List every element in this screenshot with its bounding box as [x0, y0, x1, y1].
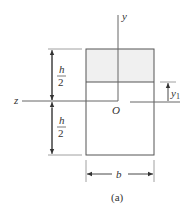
h-half-top-numerator: h — [59, 63, 65, 75]
y1-label: y1 — [170, 87, 180, 101]
cross-section-diagram: h 2 h 2 y1 y z O b (a) — [0, 0, 194, 212]
h-half-bottom-numerator: h — [59, 114, 65, 126]
figure-caption: (a) — [111, 191, 124, 204]
width-label: b — [116, 168, 122, 180]
y-axis-label: y — [121, 10, 127, 22]
h-half-top-denominator: 2 — [58, 76, 64, 88]
origin-label: O — [112, 104, 120, 116]
h-half-bottom-denominator: 2 — [58, 127, 64, 139]
shaded-region — [86, 49, 154, 82]
z-axis-label: z — [13, 94, 19, 106]
